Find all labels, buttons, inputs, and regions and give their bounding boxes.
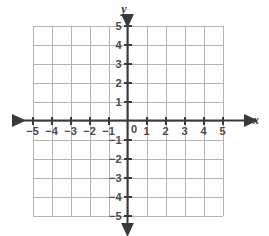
y-tick-label: 1: [115, 96, 121, 108]
x-tick-label: −3: [64, 125, 77, 137]
y-tick-label: −3: [109, 172, 122, 184]
origin-label: 0: [131, 123, 137, 135]
x-tick-label: 4: [200, 125, 207, 137]
x-axis-tick-labels: −5−4−3−2−112345: [26, 125, 225, 137]
x-tick-label: 3: [181, 125, 187, 137]
y-tick-label: 4: [115, 39, 122, 51]
x-tick-label: −4: [45, 125, 58, 137]
y-tick-label: −4: [109, 191, 122, 203]
y-axis-label: y: [119, 2, 127, 16]
x-tick-label: 1: [143, 125, 149, 137]
coordinate-plane-figure: −5−4−3−2−112345 54321−1−2−3−4−5 0 x y: [0, 0, 269, 236]
x-tick-label: −5: [26, 125, 39, 137]
axes-group: [14, 16, 246, 225]
x-axis-label: x: [252, 113, 259, 127]
y-tick-label: 3: [115, 58, 121, 70]
y-tick-label: −5: [109, 210, 122, 222]
y-tick-label: 5: [115, 20, 121, 32]
coordinate-grid-svg: −5−4−3−2−112345 54321−1−2−3−4−5 0 x y: [0, 0, 269, 236]
x-tick-label: 2: [162, 125, 168, 137]
x-tick-label: 5: [219, 125, 225, 137]
y-tick-label: −2: [109, 153, 122, 165]
y-tick-label: −1: [109, 134, 122, 146]
x-tick-label: −2: [83, 125, 96, 137]
y-tick-label: 2: [115, 77, 121, 89]
